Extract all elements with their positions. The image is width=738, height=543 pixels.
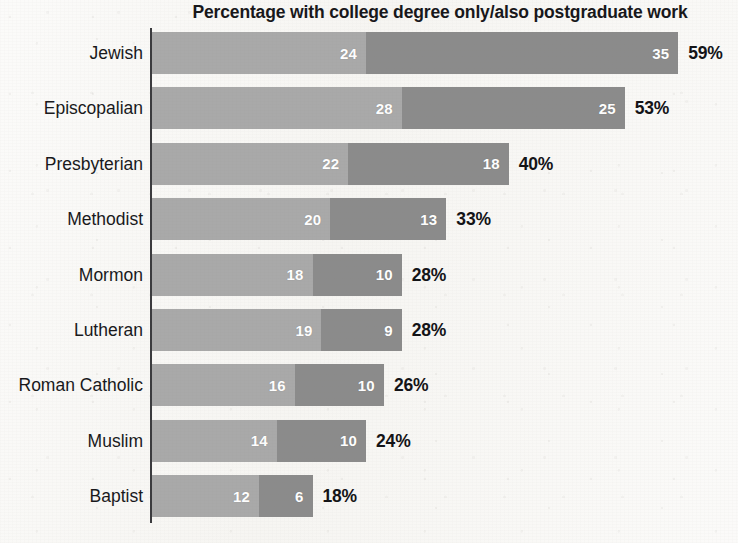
bar-segment-college-only: 20 — [152, 198, 330, 240]
bar-row: Roman Catholic161026% — [0, 364, 738, 406]
segment-value: 18 — [286, 266, 312, 283]
segment-value: 9 — [384, 322, 402, 339]
bar-segment-college-only: 12 — [152, 475, 259, 517]
chart-page: Percentage with college degree only/also… — [0, 0, 738, 543]
bar-row: Lutheran19928% — [0, 309, 738, 351]
bar-row: Muslim141024% — [0, 420, 738, 462]
bar-segment-college-only: 19 — [152, 309, 321, 351]
row-total-label: 28% — [412, 309, 446, 351]
segment-value: 12 — [233, 488, 259, 505]
bar-row: Jewish243559% — [0, 32, 738, 74]
bar-segment-college-only: 24 — [152, 32, 366, 74]
category-label: Methodist — [67, 198, 143, 240]
row-total-label: 40% — [519, 143, 553, 185]
row-total-label: 18% — [323, 475, 357, 517]
category-label: Muslim — [88, 420, 143, 462]
bar-row: Mormon181028% — [0, 254, 738, 296]
category-label: Baptist — [90, 475, 144, 517]
stacked-bar: 2218 — [152, 143, 509, 185]
category-label: Roman Catholic — [19, 364, 144, 406]
bar-row: Methodist201333% — [0, 198, 738, 240]
chart-title: Percentage with college degree only/also… — [150, 2, 730, 23]
segment-value: 16 — [269, 377, 295, 394]
segment-value: 35 — [652, 45, 678, 62]
bar-segment-postgraduate: 10 — [277, 420, 366, 462]
bar-segment-postgraduate: 25 — [402, 87, 625, 129]
stacked-bar: 2013 — [152, 198, 446, 240]
bar-segment-postgraduate: 6 — [259, 475, 313, 517]
stacked-bar: 2435 — [152, 32, 678, 74]
segment-value: 10 — [340, 432, 366, 449]
segment-value: 24 — [340, 45, 366, 62]
stacked-bar: 1410 — [152, 420, 366, 462]
segment-value: 19 — [295, 322, 321, 339]
bar-segment-postgraduate: 10 — [295, 364, 384, 406]
bar-segment-college-only: 16 — [152, 364, 295, 406]
segment-value: 20 — [304, 211, 330, 228]
category-label: Lutheran — [74, 309, 143, 351]
segment-value: 28 — [376, 100, 402, 117]
category-label: Jewish — [90, 32, 144, 74]
category-label: Episcopalian — [44, 87, 143, 129]
stacked-bar: 1810 — [152, 254, 402, 296]
segment-value: 22 — [322, 155, 348, 172]
bar-segment-postgraduate: 35 — [366, 32, 678, 74]
stacked-bar: 1610 — [152, 364, 384, 406]
bar-segment-college-only: 22 — [152, 143, 348, 185]
bar-segment-college-only: 14 — [152, 420, 277, 462]
stacked-bar: 2825 — [152, 87, 625, 129]
segment-value: 10 — [376, 266, 402, 283]
segment-value: 10 — [358, 377, 384, 394]
row-total-label: 26% — [394, 364, 428, 406]
stacked-bar: 126 — [152, 475, 313, 517]
bar-segment-postgraduate: 10 — [313, 254, 402, 296]
bar-segment-postgraduate: 13 — [330, 198, 446, 240]
segment-value: 13 — [420, 211, 446, 228]
row-total-label: 33% — [456, 198, 490, 240]
segment-value: 18 — [483, 155, 509, 172]
bar-segment-postgraduate: 18 — [348, 143, 509, 185]
bar-row: Episcopalian282553% — [0, 87, 738, 129]
bar-segment-postgraduate: 9 — [321, 309, 401, 351]
bar-segment-college-only: 18 — [152, 254, 313, 296]
bar-segment-college-only: 28 — [152, 87, 402, 129]
row-total-label: 28% — [412, 254, 446, 296]
category-label: Mormon — [79, 254, 143, 296]
row-total-label: 53% — [635, 87, 669, 129]
row-total-label: 24% — [376, 420, 410, 462]
stacked-bar: 199 — [152, 309, 402, 351]
bar-row: Baptist12618% — [0, 475, 738, 517]
bar-row: Presbyterian221840% — [0, 143, 738, 185]
category-label: Presbyterian — [45, 143, 143, 185]
segment-value: 6 — [295, 488, 313, 505]
segment-value: 14 — [251, 432, 277, 449]
row-total-label: 59% — [688, 32, 722, 74]
segment-value: 25 — [599, 100, 625, 117]
